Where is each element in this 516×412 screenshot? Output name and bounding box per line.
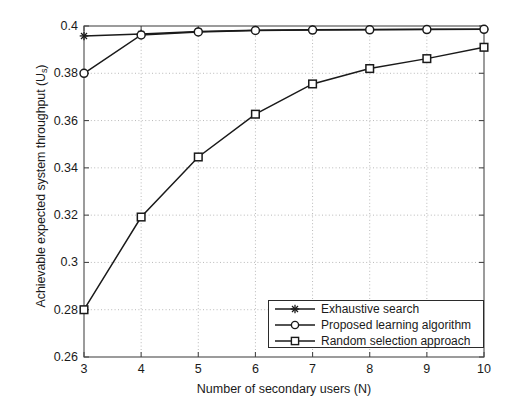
legend-item-random-selection-approach[interactable]: Random selection approach [269,333,483,349]
legend-label-proposed-learning-algorithm: Proposed learning algorithm [321,318,471,332]
legend-label-exhaustive-search: Exhaustive search [321,302,419,316]
plot-area [0,0,516,412]
legend-item-exhaustive-search[interactable]: Exhaustive search [269,301,483,317]
legend-marker-star-icon [273,302,317,316]
series-circle [80,25,488,77]
legend-marker-circle-icon [273,318,317,332]
legend[interactable]: Exhaustive search Proposed learning algo… [268,300,484,348]
legend-label-random-selection-approach: Random selection approach [321,334,470,348]
legend-item-proposed-learning-algorithm[interactable]: Proposed learning algorithm [269,317,483,333]
legend-marker-square-icon [273,334,317,348]
chart-figure: Achievable expected system throughput (U… [0,0,516,412]
